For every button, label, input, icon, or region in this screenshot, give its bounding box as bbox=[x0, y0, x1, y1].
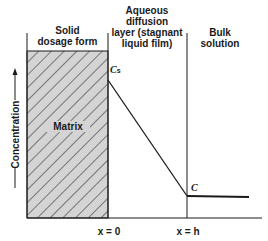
solid-label-line2: dosage form bbox=[27, 36, 108, 47]
bulk-label-line1: Bulk bbox=[190, 27, 250, 38]
c-label: C bbox=[191, 182, 203, 193]
aq-label-line4: liquid film) bbox=[104, 38, 190, 49]
cs-symbol: C bbox=[110, 64, 117, 75]
cs-subscript: s bbox=[117, 67, 121, 74]
xh-label: x = h bbox=[170, 226, 206, 237]
bulk-concentration-line bbox=[187, 196, 249, 197]
aq-label-line3: layer (stagnant bbox=[104, 27, 190, 38]
arrow-up-icon bbox=[13, 68, 18, 75]
bulk-solution-label: Bulk solution bbox=[190, 27, 250, 49]
aq-label-line1: Aqueous bbox=[104, 5, 190, 16]
y-axis-label: Concentration bbox=[10, 98, 21, 172]
gradient-line bbox=[108, 80, 187, 196]
solid-dosage-form-label: Solid dosage form bbox=[27, 25, 108, 47]
x0-label: x = 0 bbox=[91, 226, 127, 237]
bulk-label-line2: solution bbox=[190, 38, 250, 49]
solid-label-line1: Solid bbox=[27, 25, 108, 36]
aq-label-line2: diffusion bbox=[104, 16, 190, 27]
matrix-label: Matrix bbox=[46, 121, 90, 132]
matrix-region bbox=[27, 51, 108, 218]
aqueous-layer-label: Aqueous diffusion layer (stagnant liquid… bbox=[104, 5, 190, 49]
cs-label: Cs bbox=[110, 64, 126, 76]
